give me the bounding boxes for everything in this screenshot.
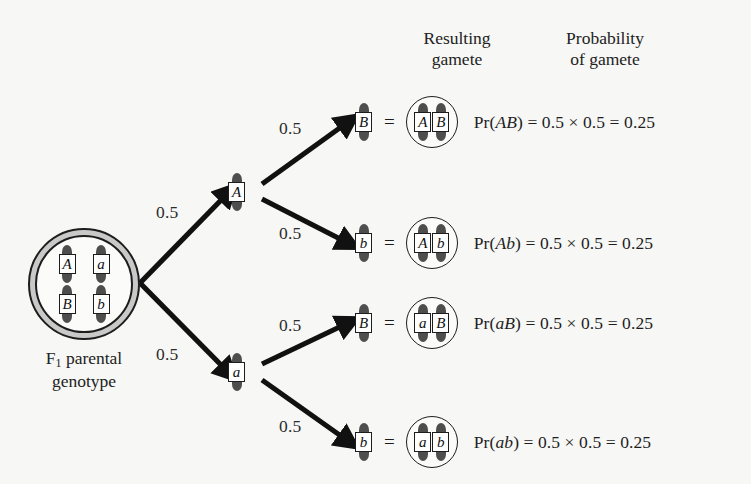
terminal-chromosome: B [355,304,372,342]
node-chromosome-a: a [228,353,245,391]
gamete-cell: a B [406,297,458,349]
gamete-chromosome: A [414,103,431,141]
prob-prefix: Pr( [474,112,496,132]
edge-label-A-to-B: 0.5 [279,118,301,139]
chromosome-B: B [59,285,76,323]
parental-label-line2: genotype [52,371,116,391]
edge-label-a-to-B: 0.5 [279,315,301,336]
parental-genotype-label: F1 parental genotype [4,348,164,393]
result-row: b = a b Pr(ab) = 0.5 × 0.5 = 0.25 [355,420,651,464]
equals-sign: = [384,111,395,133]
probability-equation: Pr(AB) = 0.5 × 0.5 = 0.25 [474,112,655,133]
equals-sign: = [384,312,395,334]
equals-sign: = [384,232,395,254]
prob-genotype: AB [495,112,517,132]
edge-label-a-to-b: 0.5 [279,416,301,437]
probability-equation: Pr(aB) = 0.5 × 0.5 = 0.25 [474,313,653,334]
chromosome-b: b [93,285,110,323]
gamete-chromosome: B [432,304,449,342]
edge-a-to-b [262,380,348,441]
terminal-chromosome: b [355,224,372,262]
edge-a-to-B [262,323,348,364]
gamete-chromosome: b [432,423,449,461]
prob-prefix: Pr( [474,313,496,333]
prob-prefix: Pr( [474,233,496,253]
chromosome-a: a [93,245,110,283]
result-row: B = a B Pr(aB) = 0.5 × 0.5 = 0.25 [355,301,653,345]
gamete-chromosome: B [432,103,449,141]
gamete-chromosome: a [414,304,431,342]
terminal-chromosome: B [355,103,372,141]
probability-equation: Pr(ab) = 0.5 × 0.5 = 0.25 [474,432,651,453]
edge-A-to-b [262,199,348,243]
terminal-chromosome: b [355,423,372,461]
edge-label-root-to-A: 0.5 [156,202,178,223]
prob-genotype: aB [495,313,515,333]
prob-suffix: ) = 0.5 × 0.5 = 0.25 [515,313,653,333]
parental-label-rest: parental [62,348,123,368]
result-row: B = A B Pr(AB) = 0.5 × 0.5 = 0.25 [355,100,655,144]
gamete-chromosome: A [414,224,431,262]
result-row: b = A b Pr(Ab) = 0.5 × 0.5 = 0.25 [355,221,653,265]
gamete-cell: A B [406,96,458,148]
edge-label-A-to-b: 0.5 [279,223,301,244]
prob-suffix: ) = 0.5 × 0.5 = 0.25 [517,112,655,132]
prob-genotype: ab [495,432,513,452]
prob-suffix: ) = 0.5 × 0.5 = 0.25 [515,233,653,253]
parental-cell: A a B b [28,228,140,340]
gamete-chromosome: b [432,224,449,262]
probability-equation: Pr(Ab) = 0.5 × 0.5 = 0.25 [474,233,653,254]
gamete-chromosome: a [414,423,431,461]
equals-sign: = [384,431,395,453]
parental-label-prefix: F [46,348,56,368]
diagram-canvas: Resulting gamete Probability of gamete 0… [0,0,751,484]
parental-chromosome-grid: A a B b [50,244,118,324]
column-header-probability-of-gamete: Probability of gamete [536,28,674,71]
prob-prefix: Pr( [474,432,496,452]
prob-genotype: Ab [495,233,515,253]
prob-suffix: ) = 0.5 × 0.5 = 0.25 [513,432,651,452]
column-header-resulting-gamete: Resulting gamete [398,28,516,71]
node-chromosome-A: A [228,173,245,211]
gamete-cell: A b [406,217,458,269]
gamete-cell: a b [406,416,458,468]
edge-A-to-B [262,122,348,184]
chromosome-A: A [59,245,76,283]
edge-root-to-A [140,193,228,283]
